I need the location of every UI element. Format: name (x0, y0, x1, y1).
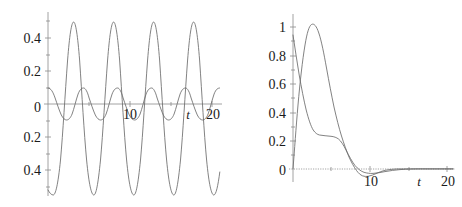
chart-panel-right: 1 0.8 0.6 0.4 0.2 0 10 20 t (231, 0, 462, 207)
right-ytick-label-2: 0.6 (269, 77, 287, 92)
left-ytick-label-2: 0 (34, 100, 41, 115)
right-curve-peak (293, 24, 453, 176)
right-curve-plateau (293, 35, 453, 173)
right-xtick-label-1: 20 (441, 174, 455, 189)
left-ytick-label-0: 0.4 (24, 31, 42, 46)
right-ytick-label-3: 0.4 (269, 106, 287, 121)
left-xaxis-label: t (186, 107, 190, 122)
right-xtick-label-0: 10 (364, 174, 378, 189)
right-ytick-label-5: 0 (279, 163, 286, 178)
right-ytick-label-0: 1 (279, 20, 286, 35)
left-ytick-label-3: 0.2 (24, 130, 42, 145)
left-ytick-label-4: 0.4 (24, 163, 42, 178)
right-ytick-label-4: 0.2 (269, 134, 287, 149)
right-xaxis-label: t (417, 174, 421, 189)
left-xtick-label-1: 20 (206, 107, 220, 122)
chart-panel-left: 0.4 0.2 0 0.2 0.4 10 20 t (0, 0, 231, 207)
figure-container: 0.4 0.2 0 0.2 0.4 10 20 t (0, 0, 462, 207)
left-ytick-label-1: 0.2 (24, 64, 42, 79)
left-plot-svg: 0.4 0.2 0 0.2 0.4 10 20 t (0, 0, 231, 207)
left-xtick-label-0: 10 (123, 107, 137, 122)
right-ytick-label-1: 0.8 (269, 49, 287, 64)
right-plot-svg: 1 0.8 0.6 0.4 0.2 0 10 20 t (231, 0, 462, 207)
